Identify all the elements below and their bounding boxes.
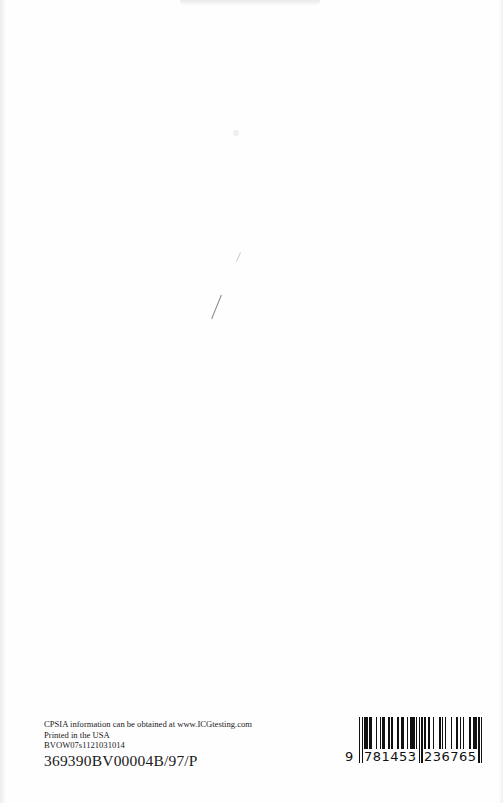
scan-mark <box>236 252 241 261</box>
page-edge-left <box>0 0 6 803</box>
barcode-right-digits: 236765 <box>423 749 478 764</box>
barcode-left-digits: 781453 <box>363 749 418 764</box>
cpsia-info-block: CPSIA information can be obtained at www… <box>44 719 252 751</box>
scan-mark <box>211 295 222 319</box>
cpsia-line: CPSIA information can be obtained at www… <box>44 719 252 730</box>
printed-in-line: Printed in the USA <box>44 730 252 741</box>
barcode-bar <box>481 717 482 763</box>
scan-speck <box>233 130 239 136</box>
isbn-barcode: 9 781453 236765 <box>345 717 495 769</box>
barcode-first-digit: 9 <box>345 749 354 764</box>
scan-smudge <box>180 0 320 6</box>
print-code: 369390BV00004B/97/P <box>44 752 198 770</box>
batch-code-line: BVOW07s1121031014 <box>44 740 252 751</box>
page-edge-right <box>499 0 503 803</box>
